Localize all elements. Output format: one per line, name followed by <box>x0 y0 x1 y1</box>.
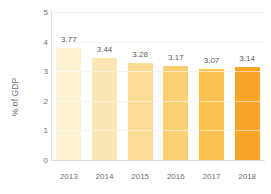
bar-group-2013[interactable]: 3.772013 <box>56 0 81 194</box>
y-axis-title: % of GDP <box>0 0 30 194</box>
y-axis-tick-3: 3 <box>34 67 48 76</box>
bar-gridline <box>56 71 81 72</box>
bar-value-label-2015: 3.28 <box>120 50 160 59</box>
bar-gridline <box>92 101 117 102</box>
y-axis-tick-2: 2 <box>34 96 48 105</box>
x-axis-label-2013: 2013 <box>49 172 89 181</box>
bar-value-label-2016: 3.17 <box>156 53 196 62</box>
bar-gridline <box>92 130 117 131</box>
bar-gridline <box>163 71 188 72</box>
bar-group-2018[interactable]: 3.142018 <box>235 0 260 194</box>
bar-gridline <box>199 71 224 72</box>
y-axis-tick-labels: 012345 <box>30 0 48 194</box>
bar-gridline <box>128 130 153 131</box>
bar-group-2014[interactable]: 3.442014 <box>92 0 117 194</box>
bar-2015[interactable] <box>128 63 153 160</box>
bar-gridline <box>235 101 260 102</box>
bar-group-2015[interactable]: 3.282015 <box>128 0 153 194</box>
bar-gridline <box>128 71 153 72</box>
bar-2017[interactable] <box>199 69 224 160</box>
bar-gridline <box>128 101 153 102</box>
y-axis-tick-1: 1 <box>34 126 48 135</box>
bar-chart: % of GDP 012345 3.7720133.4420143.282015… <box>0 0 271 194</box>
y-axis-tick-0: 0 <box>34 156 48 165</box>
y-axis-tick-4: 4 <box>34 37 48 46</box>
bar-gridline <box>199 130 224 131</box>
bar-group-2016[interactable]: 3.172016 <box>163 0 188 194</box>
bar-gridline <box>235 71 260 72</box>
y-axis-tick-5: 5 <box>34 8 48 17</box>
x-axis-label-2017: 2017 <box>192 172 232 181</box>
bar-2013[interactable] <box>56 48 81 160</box>
bar-gridline <box>56 130 81 131</box>
x-axis-label-2018: 2018 <box>227 172 267 181</box>
bar-gridline <box>163 130 188 131</box>
bar-value-label-2017: 3.07 <box>192 56 232 65</box>
bar-gridline <box>199 101 224 102</box>
bar-value-label-2014: 3.44 <box>85 45 125 54</box>
bar-gridline <box>163 101 188 102</box>
bar-value-label-2018: 3.14 <box>227 54 267 63</box>
bar-2018[interactable] <box>235 67 260 160</box>
x-axis-label-2014: 2014 <box>85 172 125 181</box>
x-axis-label-2016: 2016 <box>156 172 196 181</box>
bar-gridline <box>56 101 81 102</box>
bar-gridline <box>92 71 117 72</box>
bar-group-2017[interactable]: 3.072017 <box>199 0 224 194</box>
bar-2016[interactable] <box>163 66 188 160</box>
bars-layer: 3.7720133.4420143.2820153.1720163.072017… <box>51 0 265 194</box>
x-axis-label-2015: 2015 <box>120 172 160 181</box>
bar-2014[interactable] <box>92 58 117 160</box>
bar-value-label-2013: 3.77 <box>49 35 89 44</box>
bar-gridline <box>235 130 260 131</box>
